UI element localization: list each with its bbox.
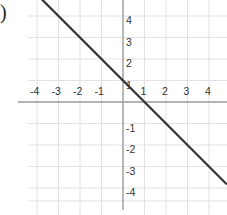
y-tick-label: 4 [126,14,132,26]
x-tick-label: 4 [205,85,211,97]
x-tick-label: -3 [52,85,61,97]
tick-labels: -4-3-2-112344321-1-2-3-4 [30,14,211,198]
y-tick-label: -1 [126,122,135,134]
y-tick-label: -4 [126,186,135,198]
y-tick-label: 3 [126,36,132,48]
coordinate-plane: -4-3-2-112344321-1-2-3-4 [0,0,227,215]
x-tick-label: -4 [30,85,39,97]
x-tick-label: -1 [95,85,104,97]
x-tick-label: -2 [73,85,82,97]
x-tick-label: 2 [162,85,168,97]
y-tick-label: 2 [126,57,132,69]
axes [18,0,227,210]
x-tick-label: 3 [184,85,190,97]
x-tick-label: 1 [141,85,147,97]
grid-lines [28,0,227,215]
y-tick-label: -2 [126,143,135,155]
y-tick-label: -3 [126,165,135,177]
